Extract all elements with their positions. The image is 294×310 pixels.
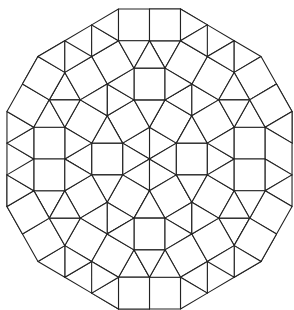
square-tile [150, 9, 181, 41]
square-tile [34, 159, 65, 191]
square-tile [119, 9, 150, 41]
square-tile [150, 277, 181, 309]
square-tile [134, 218, 165, 250]
square-tile [92, 143, 123, 175]
square-tile [176, 143, 207, 175]
tiling-diagram [0, 0, 294, 310]
square-tile [234, 159, 265, 191]
square-triangle-tiling [0, 0, 294, 310]
square-tile [34, 127, 65, 159]
square-tile [134, 68, 165, 100]
square-tile [119, 277, 150, 309]
square-tile [234, 127, 265, 159]
tiles-group [7, 9, 292, 309]
